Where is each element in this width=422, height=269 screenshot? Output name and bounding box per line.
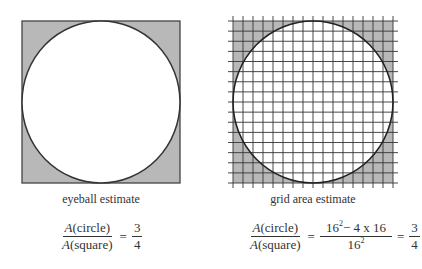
eyeball-formula: A(circle) A(square) = 3 4 — [58, 221, 144, 252]
equals-sign: = — [397, 229, 404, 245]
eyeball-figure — [20, 19, 182, 185]
subtraction-term: − 4 x 16 — [343, 220, 386, 235]
grid-figure — [227, 14, 401, 190]
numerator: 3 — [409, 221, 420, 237]
numerator: 3 — [132, 221, 143, 237]
grid-formula: A(circle) A(square) = 162− 4 x 16 162 = … — [246, 221, 422, 252]
var-a: A — [62, 237, 70, 252]
denominator: 4 — [132, 237, 143, 252]
grid-caption: grid area estimate — [253, 192, 373, 207]
var-a: A — [250, 237, 258, 252]
exponent: 2 — [360, 236, 364, 245]
square-label: (square) — [258, 237, 301, 252]
denominator: 4 — [409, 237, 420, 252]
area-ratio-fraction: A(circle) A(square) — [248, 221, 303, 252]
base: 16 — [347, 237, 360, 252]
equals-sign: = — [308, 229, 315, 245]
grid-circle-diagram — [227, 14, 401, 190]
square-label: (square) — [70, 237, 113, 252]
circle-label: (circle) — [260, 220, 298, 235]
result-fraction: 3 4 — [409, 221, 420, 252]
grid-count-fraction: 162− 4 x 16 162 — [320, 221, 392, 252]
result-fraction: 3 4 — [132, 221, 143, 252]
eyeball-caption: eyeball estimate — [41, 192, 161, 207]
area-ratio-fraction: A(circle) A(square) — [60, 221, 115, 252]
circle-label: (circle) — [72, 220, 110, 235]
square-circle-diagram — [20, 19, 182, 185]
circle-shape — [22, 21, 180, 183]
base: 16 — [326, 220, 339, 235]
equals-sign: = — [120, 229, 127, 245]
